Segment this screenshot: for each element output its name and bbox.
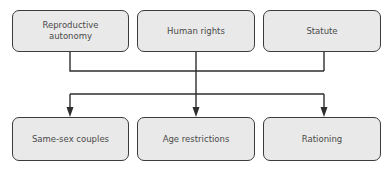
node-same-sex-couples: Same-sex couples — [12, 117, 129, 161]
node-label: Rationing — [302, 134, 342, 145]
node-label: Human rights — [167, 26, 225, 37]
node-label: Same-sex couples — [32, 134, 109, 145]
node-human-rights: Human rights — [137, 10, 255, 52]
diagram-canvas: Reproductive autonomy Human rights Statu… — [0, 0, 391, 172]
node-reproductive-autonomy: Reproductive autonomy — [12, 10, 129, 52]
arrowhead-icon — [321, 107, 328, 117]
connector-reproductive-autonomy — [70, 51, 324, 71]
node-statute: Statute — [263, 10, 381, 52]
node-label: Reproductive autonomy — [35, 20, 107, 42]
node-age-restrictions: Age restrictions — [137, 117, 255, 161]
node-label: Age restrictions — [163, 134, 230, 145]
arrowhead-icon — [67, 107, 74, 117]
node-label: Statute — [306, 26, 337, 37]
arrowhead-icon — [193, 107, 200, 117]
node-rationing: Rationing — [263, 117, 381, 161]
